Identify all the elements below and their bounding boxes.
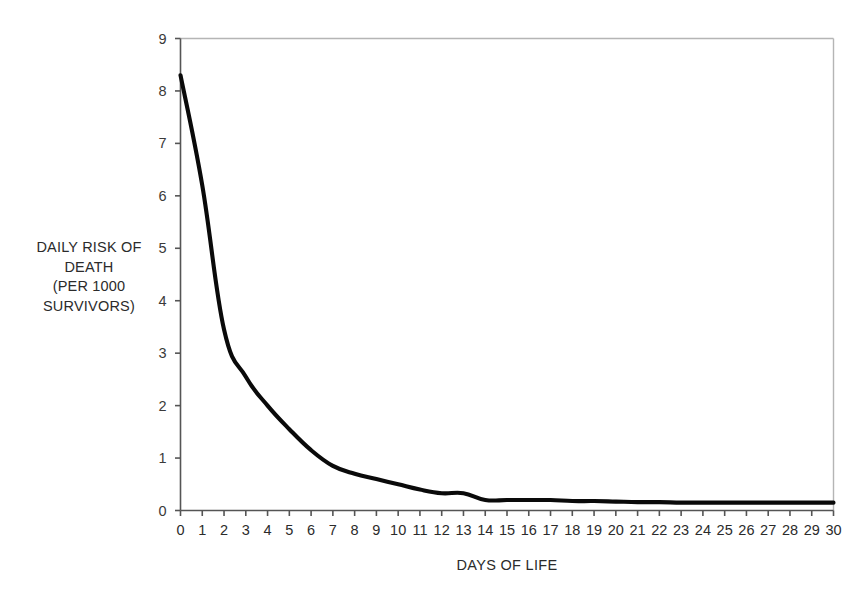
chart-figure: DAILY RISK OF DEATH (PER 1000 SURVIVORS)… <box>0 0 867 597</box>
plot-frame <box>181 39 834 511</box>
data-line-series-1 <box>181 75 834 502</box>
axis-tickmarks <box>175 39 834 517</box>
axis-lines <box>181 39 834 511</box>
plot-canvas <box>0 0 867 597</box>
